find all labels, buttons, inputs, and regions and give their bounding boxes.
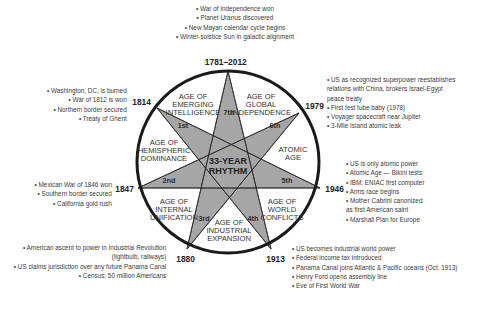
ordinal-6th: 6th [270, 121, 281, 130]
ordinal-7th: 7th [224, 108, 235, 117]
ordinal-1st: 1st [178, 121, 189, 130]
center-label-line2: RHYTHM [209, 166, 248, 176]
ordinal-5th: 5th [282, 176, 293, 185]
svg-text:EXPANSION: EXPANSION [207, 234, 251, 243]
svg-text:INDEPENDENCE: INDEPENDENCE [231, 108, 291, 117]
ordinal-4th: 4th [248, 214, 259, 223]
heptagram-wheel: AGE OF EMERGING INTELLIGENCE AGE OF GLOB… [0, 0, 484, 313]
svg-text:UNIFICATION: UNIFICATION [150, 213, 198, 222]
ordinal-3rd: 3rd [198, 214, 209, 223]
svg-text:DOMINANCE: DOMINANCE [141, 154, 187, 163]
svg-text:CONFLICTS: CONFLICTS [260, 213, 303, 222]
ordinal-2nd: 2nd [163, 176, 176, 185]
center-label-line1: 33-YEAR [209, 156, 248, 166]
svg-text:AGE: AGE [285, 153, 301, 162]
svg-text:INTELLIGENCE: INTELLIGENCE [166, 108, 221, 117]
